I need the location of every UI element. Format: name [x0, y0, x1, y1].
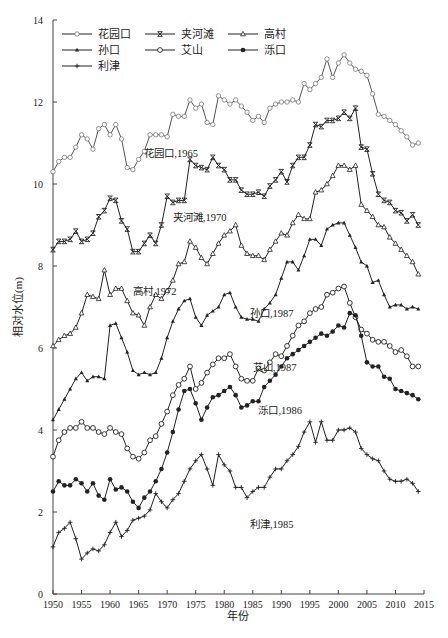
x-tick-label: 1970 [157, 599, 177, 610]
legend-label: 花园口 [98, 28, 131, 40]
legend-label: 泺口 [264, 44, 286, 56]
legend-label: 艾山 [181, 44, 203, 56]
x-tick-label: 1995 [300, 599, 320, 610]
x-tick-label: 2000 [328, 599, 348, 610]
legend-item: 夹河滩 [145, 27, 214, 40]
y-tick-label: 10 [33, 179, 43, 190]
legend-label: 利津 [98, 60, 120, 72]
x-tick-label: 2015 [414, 599, 434, 610]
x-tick-label: 1965 [129, 599, 149, 610]
series-annotation: 高村,1972 [133, 285, 177, 297]
series-annotation: 艾山,1987 [253, 362, 297, 373]
series-line [53, 166, 418, 346]
legend-item: 利津 [62, 60, 120, 72]
x-tick-label: 1985 [243, 599, 263, 610]
legend-label: 夹河滩 [181, 27, 214, 40]
legend-item: 孙口 [62, 44, 120, 56]
series-5 [51, 284, 421, 461]
x-tick-label: 1960 [100, 599, 120, 610]
y-tick-label: 6 [38, 343, 43, 354]
chart-legend: 花园口夹河滩高村孙口艾山泺口利津 [62, 27, 286, 72]
series-annotation: 泺口,1986 [258, 405, 302, 416]
legend-label: 高村 [264, 27, 286, 40]
y-tick-label: 2 [38, 507, 43, 518]
x-tick-label: 1950 [43, 599, 63, 610]
chart-axes: 1950195519601965197019751980198519901995… [33, 15, 434, 610]
series-3 [51, 163, 421, 348]
y-tick-label: 14 [33, 15, 43, 26]
chart-annotations: 花园口,1965夹河滩,1970高村,1972孙口,1987艾山,1987泺口,… [133, 147, 302, 530]
legend-item: 花园口 [62, 28, 131, 40]
series-annotation: 孙口,1987 [250, 307, 294, 319]
x-tick-label: 1975 [186, 599, 206, 610]
series-annotation: 花园口,1965 [144, 147, 198, 159]
series-7 [51, 420, 421, 562]
series-line [53, 223, 418, 420]
y-axis-label: 相对水位(m) [11, 277, 25, 337]
legend-label: 孙口 [98, 44, 120, 56]
x-tick-label: 1980 [214, 599, 234, 610]
x-tick-label: 2010 [385, 599, 405, 610]
legend-item: 高村 [228, 27, 286, 40]
legend-item: 泺口 [228, 44, 286, 56]
x-tick-label: 1990 [271, 599, 291, 610]
x-tick-label: 1955 [72, 599, 92, 610]
series-line [53, 422, 418, 559]
chart-series [51, 53, 421, 562]
legend-item: 艾山 [145, 44, 203, 56]
y-tick-label: 0 [38, 589, 43, 600]
x-tick-label: 2005 [357, 599, 377, 610]
y-tick-label: 4 [38, 425, 43, 436]
series-line [53, 287, 418, 459]
y-tick-label: 12 [33, 97, 43, 108]
series-annotation: 利津,1985 [250, 519, 294, 530]
water-level-line-chart: 1950195519601965197019751980198519901995… [0, 0, 448, 638]
series-annotation: 夹河滩,1970 [173, 211, 227, 223]
x-axis-label: 年份 [227, 609, 249, 622]
series-6 [51, 311, 421, 510]
y-tick-label: 8 [38, 261, 43, 272]
series-4 [51, 221, 420, 422]
